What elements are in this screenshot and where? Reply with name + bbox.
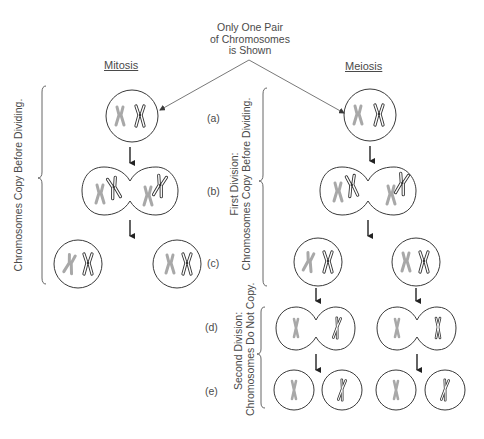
second-division-brace [257, 307, 265, 408]
meiosis-cell-a [344, 89, 396, 141]
mitosis-brace [38, 86, 46, 284]
meiosis-cell-e-1 [274, 370, 314, 410]
meiosis-cell-c-left [294, 238, 342, 286]
first-division-brace [259, 88, 267, 286]
mitosis-cell-c-left [54, 240, 102, 288]
meiosis-cell-e-4 [425, 370, 465, 410]
mitosis-cell-a [106, 90, 158, 142]
meiosis-cell-e-3 [376, 370, 416, 410]
meiosis-cell-e-2 [322, 370, 362, 410]
meiosis-cell-c-right [392, 238, 440, 286]
meiosis-cell-d-left [276, 307, 355, 350]
mitosis-cell-c-right [153, 240, 201, 288]
mitosis-cell-b [82, 167, 178, 215]
mitosis-meiosis-diagram: Only One Pair of Chromosomes is Shown Mi… [0, 0, 484, 439]
meiosis-cell-d-right [377, 307, 456, 350]
diagram-graphics [0, 0, 484, 439]
title-arrows [160, 60, 344, 113]
meiosis-cell-b [320, 167, 416, 215]
